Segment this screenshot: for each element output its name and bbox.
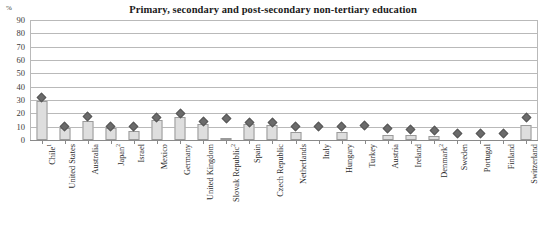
x-axis-label-chile: Chile1 <box>45 144 57 165</box>
bar-group <box>169 20 192 140</box>
data-point-marker <box>475 128 485 138</box>
x-axis-label-turkey: Turkey <box>368 144 377 168</box>
y-axis-tick-90: 90 <box>17 16 26 24</box>
y-axis-tick-60: 60 <box>17 56 26 64</box>
data-point-marker <box>521 112 531 122</box>
data-point-marker <box>83 111 93 121</box>
x-axis-label-spain: Spain <box>253 144 262 163</box>
data-point-marker <box>360 120 370 130</box>
chart-title: Primary, secondary and post-secondary no… <box>0 4 546 15</box>
x-axis-label-czech-republic: Czech Republic <box>276 144 285 197</box>
x-axis-label-denmark: Denmark2 <box>437 144 449 178</box>
bar-group <box>330 20 353 140</box>
bar-group <box>423 20 446 140</box>
bar <box>267 125 278 140</box>
y-axis-unit-label: % <box>6 4 12 12</box>
y-axis-tick-20: 20 <box>17 109 26 117</box>
bar-group <box>492 20 515 140</box>
bar-group <box>353 20 376 140</box>
x-axis-label-australia: Australia <box>91 144 100 174</box>
bar <box>82 121 93 140</box>
x-axis-label-portugal: Portugal <box>483 144 492 172</box>
x-axis-label-united-kingdom: United Kingdom <box>206 144 215 200</box>
y-axis-tick-0: 0 <box>21 136 25 144</box>
x-axis-label-israel: Israel <box>137 144 146 162</box>
x-axis-label-slovak-republic: Slovak Republic2 <box>229 144 241 202</box>
chart-container: Primary, secondary and post-secondary no… <box>0 0 546 231</box>
bar-group <box>76 20 99 140</box>
x-axis-label-ireland: Ireland <box>414 144 423 168</box>
x-axis-label-japan: Japan2 <box>114 144 126 166</box>
bar-series-group <box>30 20 538 140</box>
y-axis-tick-40: 40 <box>17 83 26 91</box>
bar <box>128 131 139 140</box>
y-axis: 0102030405060708090 <box>0 20 28 140</box>
bar <box>336 132 347 140</box>
data-point-marker <box>452 128 462 138</box>
data-point-marker <box>429 126 439 136</box>
data-point-marker <box>291 122 301 132</box>
bar <box>290 132 301 140</box>
bar-group <box>376 20 399 140</box>
y-axis-tick-70: 70 <box>17 43 26 51</box>
bar-group <box>145 20 168 140</box>
bar-group <box>284 20 307 140</box>
x-axis-label-austria: Austria <box>391 144 400 168</box>
bar-group <box>469 20 492 140</box>
data-point-marker <box>498 128 508 138</box>
bar-group <box>30 20 53 140</box>
bar-group <box>99 20 122 140</box>
bar-group <box>122 20 145 140</box>
bar-group <box>192 20 215 140</box>
plot-area <box>30 20 538 140</box>
bar <box>175 117 186 140</box>
x-axis-category-labels: Chile1United StatesAustraliaJapan2Israel… <box>30 144 538 230</box>
bar-group <box>53 20 76 140</box>
bar-group <box>307 20 330 140</box>
bar <box>521 125 532 140</box>
x-axis-label-united-states: United States <box>68 144 77 188</box>
x-axis-label-hungary: Hungary <box>345 144 354 173</box>
data-point-marker <box>314 122 324 132</box>
x-axis-label-italy: Italy <box>322 144 331 159</box>
bar-group <box>215 20 238 140</box>
bar <box>36 101 47 140</box>
data-point-marker <box>406 124 416 134</box>
x-axis-label-finland: Finland <box>507 144 516 169</box>
y-axis-tick-30: 30 <box>17 96 26 104</box>
x-axis-label-sweden: Sweden <box>460 144 469 170</box>
gridline-0 <box>30 140 538 141</box>
bar-group <box>446 20 469 140</box>
bar-group <box>261 20 284 140</box>
y-axis-tick-50: 50 <box>17 69 26 77</box>
data-point-marker <box>221 114 231 124</box>
x-axis-label-germany: Germany <box>183 144 192 175</box>
bar <box>151 120 162 140</box>
x-axis-label-netherlands: Netherlands <box>299 144 308 184</box>
bar-group <box>515 20 538 140</box>
y-axis-tick-10: 10 <box>17 123 26 131</box>
data-point-marker <box>337 122 347 132</box>
y-axis-tick-80: 80 <box>17 29 26 37</box>
bar-group <box>399 20 422 140</box>
bar-group <box>238 20 261 140</box>
x-axis-label-switzerland: Switzerland <box>530 144 539 184</box>
x-axis-label-mexico: Mexico <box>160 144 169 169</box>
data-point-marker <box>383 123 393 133</box>
